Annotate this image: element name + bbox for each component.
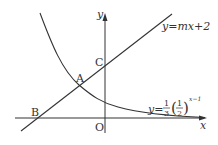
- svg-text:x−1: x−1: [189, 95, 201, 102]
- svg-text:1: 1: [177, 99, 182, 108]
- point-c-label: C: [95, 56, 103, 69]
- curve-equation-label: y= 1 3 ( 1 2 ) x−1: [147, 95, 201, 118]
- y-axis-label: y: [96, 8, 104, 21]
- svg-text:2: 2: [177, 109, 182, 118]
- line-equation-label: y=mx+2: [161, 20, 210, 33]
- point-b-label: B: [31, 106, 39, 119]
- x-axis-label: x: [200, 119, 207, 132]
- origin-label: O: [95, 121, 104, 134]
- graph: y x O C A B y=mx+2 y= 1 3 ( 1 2 ) x−1: [0, 0, 218, 145]
- svg-text:(: (: [171, 99, 177, 117]
- svg-text:3: 3: [164, 109, 169, 118]
- y-axis-arrow-icon: [103, 13, 108, 21]
- point-a-label: A: [75, 72, 85, 85]
- svg-text:1: 1: [164, 99, 169, 108]
- svg-text:): ): [183, 99, 189, 117]
- svg-text:y=: y=: [147, 103, 163, 116]
